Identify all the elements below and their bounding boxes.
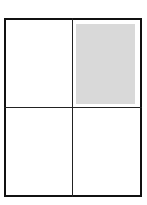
horizontal-divider [4, 107, 142, 108]
grid-cell-top-left [6, 20, 72, 107]
shaded-region [76, 24, 135, 104]
grid-cell-bottom-left [6, 108, 72, 193]
grid-cell-bottom-right [73, 108, 138, 193]
